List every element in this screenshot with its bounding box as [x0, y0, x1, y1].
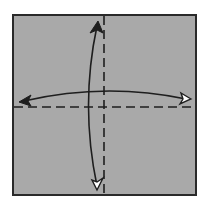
origami-diagram [0, 0, 208, 209]
